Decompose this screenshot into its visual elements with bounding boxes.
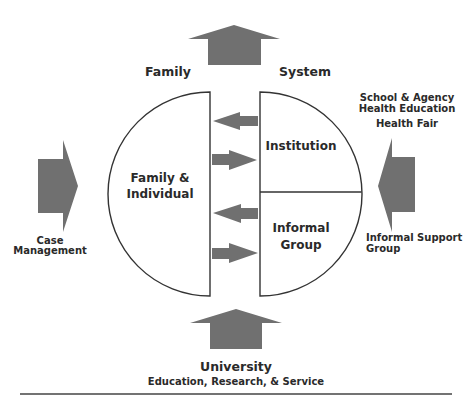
family-node-label-line1: Family & [131, 172, 190, 184]
exchange-arrow-3-left-icon [213, 204, 258, 223]
exchange-arrow-4-right-icon [212, 243, 258, 263]
health-education-label: Health Education [359, 104, 456, 114]
system-label: System [279, 66, 331, 79]
university-subtitle: Education, Research, & Service [148, 377, 324, 387]
case-management-arrow-icon [38, 140, 78, 232]
school-agency-label: School & Agency [360, 93, 454, 103]
informal-group-label-line2: Group [280, 239, 321, 251]
diagram-graphics [0, 0, 470, 404]
institution-label: Institution [266, 140, 337, 152]
informal-support-group-label: Group [366, 244, 400, 254]
institution-group-node [260, 92, 362, 296]
community-input-arrow-icon [378, 138, 415, 232]
university-label: University [200, 361, 272, 374]
health-fair-label: Health Fair [376, 119, 438, 129]
top-up-arrow-icon [188, 25, 280, 65]
university-arrow-icon [190, 309, 282, 349]
informal-group-label-line1: Informal [272, 222, 329, 234]
family-node-label-line2: Individual [127, 188, 194, 200]
management-label: Management [13, 246, 87, 256]
informal-support-label: Informal Support [366, 233, 462, 243]
family-label: Family [145, 66, 191, 79]
exchange-arrow-1-left-icon [213, 112, 258, 130]
family-system-diagram: Family System Family & Individual Instit… [0, 0, 470, 404]
exchange-arrow-2-right-icon [212, 150, 257, 170]
